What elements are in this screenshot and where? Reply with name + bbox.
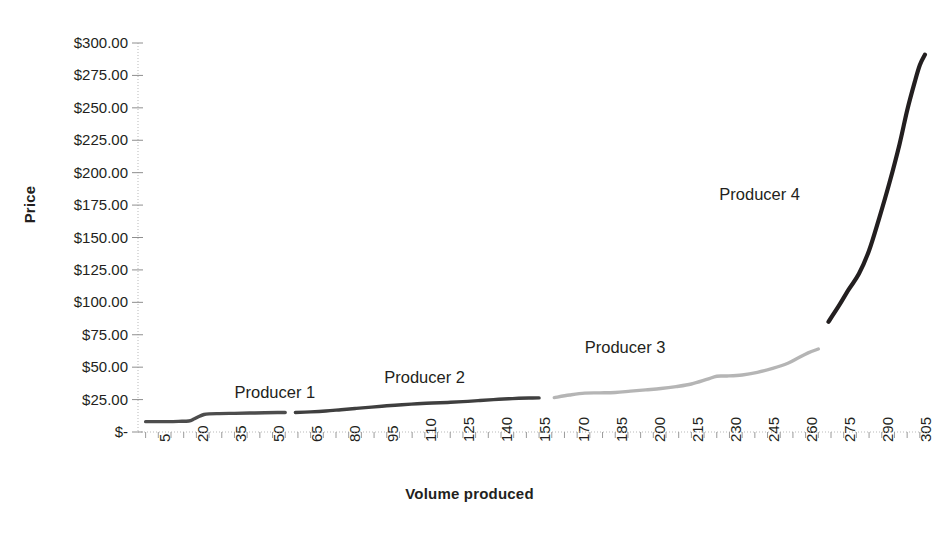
- series-line-producer-4: [828, 55, 924, 322]
- price-volume-chart: Price Volume produced $300.00$275.00$250…: [0, 0, 939, 533]
- series-label-producer-1: Producer 1: [234, 384, 315, 401]
- series-label-producer-2: Producer 2: [384, 369, 465, 386]
- series-label-producer-3: Producer 3: [585, 339, 666, 356]
- series-line-producer-1: [146, 413, 286, 422]
- series-label-producer-4: Producer 4: [719, 186, 800, 203]
- series-line-producer-3: [554, 349, 818, 398]
- plot-area: [0, 0, 939, 533]
- series-line-producer-2: [295, 398, 539, 413]
